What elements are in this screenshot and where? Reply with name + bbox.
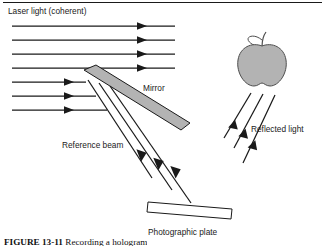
figure-caption-text: Recording a hologram (65, 237, 147, 246)
laser-beam-mirror-2-arrowhead (64, 92, 74, 100)
laser-beams-to-mirror-group (12, 78, 107, 114)
label-reference-beam: Reference beam (62, 140, 123, 150)
reflected-ray-2 (234, 94, 263, 148)
apple-object (238, 32, 287, 86)
laser-beams-passing-group (12, 22, 175, 72)
label-reflected-light: Reflected light (251, 124, 304, 134)
photographic-plate-object (147, 202, 232, 219)
label-photographic-plate: Photographic plate (148, 227, 218, 237)
label-laser-light: Laser light (coherent) (8, 6, 87, 16)
laser-beam-pass-4-arrowhead (137, 64, 147, 72)
apple-body (238, 45, 287, 86)
laser-beam-mirror-1-arrowhead (64, 78, 74, 86)
reference-beam-3-arrowhead (170, 166, 180, 179)
laser-beam-pass-3-arrowhead (137, 50, 147, 58)
diagram-canvas: Laser light (coherent) Mirror Reference … (0, 0, 325, 246)
label-mirror: Mirror (143, 83, 165, 93)
photographic-plate-shape (147, 202, 232, 219)
laser-beam-mirror-3-arrowhead (64, 106, 74, 114)
hologram-figure: Laser light (coherent) Mirror Reference … (0, 0, 325, 246)
figure-caption: FIGURE 13-11 Recording a hologram (4, 237, 147, 246)
laser-beam-pass-2-arrowhead (137, 36, 147, 44)
laser-beam-pass-1-arrowhead (137, 22, 147, 30)
reflected-ray-1 (224, 93, 251, 138)
figure-caption-number: FIGURE 13-11 (4, 237, 63, 246)
